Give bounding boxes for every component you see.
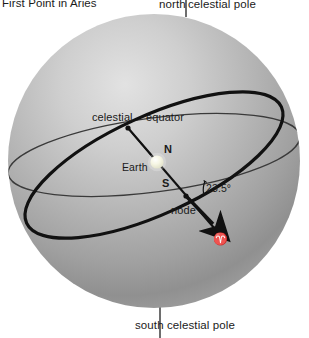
diagram-canvas <box>0 0 309 338</box>
upper-node-dot <box>125 125 130 130</box>
obliquity-angle-label: 23.5° <box>206 183 231 194</box>
earth-north-pole-letter: N <box>164 144 172 155</box>
earth-glow <box>148 153 166 171</box>
node-label: node <box>171 205 196 216</box>
south-celestial-pole-label-rest: celestial pole <box>167 320 235 332</box>
celestial-equator-label-celestial: celestial <box>92 112 133 123</box>
celestial-equator-label-equator: equator <box>146 112 184 123</box>
north-celestial-pole-label-north: north <box>159 0 186 11</box>
earth-label: Earth <box>122 162 148 173</box>
first-point-in-aries-label: First Point in Aries <box>2 0 97 10</box>
earth-south-pole-letter: S <box>162 178 169 189</box>
aries-symbol-label: ♈ <box>213 233 228 245</box>
south-celestial-pole-label-south: south <box>135 320 164 332</box>
north-celestial-pole-label-rest: celestial pole <box>188 0 256 11</box>
celestial-sphere-diagram: First Point in Aries north celestial pol… <box>0 0 309 338</box>
